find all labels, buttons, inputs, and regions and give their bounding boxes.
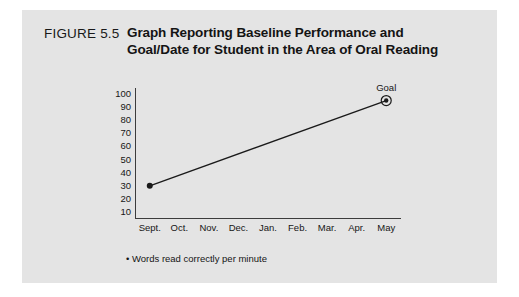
x-axis-tick-label: Oct. xyxy=(171,222,188,233)
goal-marker-dot xyxy=(384,98,388,102)
y-axis-tick-label: 40 xyxy=(105,168,131,178)
y-axis-tick-label: 70 xyxy=(105,128,131,138)
x-axis-tick-labels: Sept.Oct.Nov.Dec.Jan.Feb.Mar.Apr.May xyxy=(135,222,415,238)
y-axis-tick-label: 80 xyxy=(105,115,131,125)
line-chart: 100908070605040302010 Sept.Oct.Nov.Dec.J… xyxy=(22,10,497,283)
y-axis-tick-label: 90 xyxy=(105,102,131,112)
data-series-line xyxy=(22,10,497,283)
chart-footnote: • Words read correctly per minute xyxy=(126,253,267,264)
y-axis-tick-label: 50 xyxy=(105,155,131,165)
y-axis-tick-labels: 100908070605040302010 xyxy=(101,88,131,219)
x-axis-tick-label: May xyxy=(377,222,395,233)
x-axis-line xyxy=(135,218,401,219)
figure-panel: FIGURE 5.5 Graph Reporting Baseline Perf… xyxy=(22,10,497,283)
goal-annotation-label: Goal xyxy=(376,82,396,93)
goal-marker-ring xyxy=(381,96,391,106)
y-axis-tick-label: 30 xyxy=(105,181,131,191)
y-axis-tick-label: 60 xyxy=(105,141,131,151)
y-axis-line xyxy=(135,88,136,219)
x-axis-tick-label: Feb. xyxy=(288,222,307,233)
y-axis-tick-label: 100 xyxy=(105,89,131,99)
x-axis-tick-label: Sept. xyxy=(139,222,161,233)
baseline-marker-dot xyxy=(147,183,153,189)
y-axis-tick-label: 10 xyxy=(105,207,131,217)
x-axis-tick-label: Mar. xyxy=(318,222,336,233)
y-axis-tick-label: 20 xyxy=(105,194,131,204)
x-axis-tick-label: Nov. xyxy=(199,222,218,233)
x-axis-tick-label: Dec. xyxy=(229,222,249,233)
x-axis-tick-label: Apr. xyxy=(348,222,365,233)
series-line xyxy=(150,101,386,186)
x-axis-tick-label: Jan. xyxy=(259,222,277,233)
